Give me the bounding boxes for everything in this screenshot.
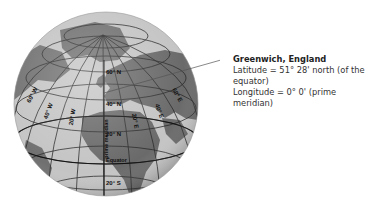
label-equator: Equator [106, 157, 127, 163]
label-lat-60n: 60° N [106, 69, 121, 75]
callout-latitude: Latitude = 51° 28' north (of the equator… [233, 65, 374, 87]
label-lat-40n: 40° N [106, 101, 121, 107]
globe-illustration: 60° N 40° N 20° N Equator 20° S 60° W 40… [0, 0, 220, 210]
location-callout: Greenwich, England Latitude = 51° 28' no… [233, 54, 374, 109]
label-prime-meridian: prime meridian [103, 119, 109, 158]
callout-title: Greenwich, England [233, 54, 374, 65]
callout-longitude: Longitude = 0° 0' (prime meridian) [233, 87, 374, 109]
label-lat-20s: 20° S [106, 180, 121, 186]
